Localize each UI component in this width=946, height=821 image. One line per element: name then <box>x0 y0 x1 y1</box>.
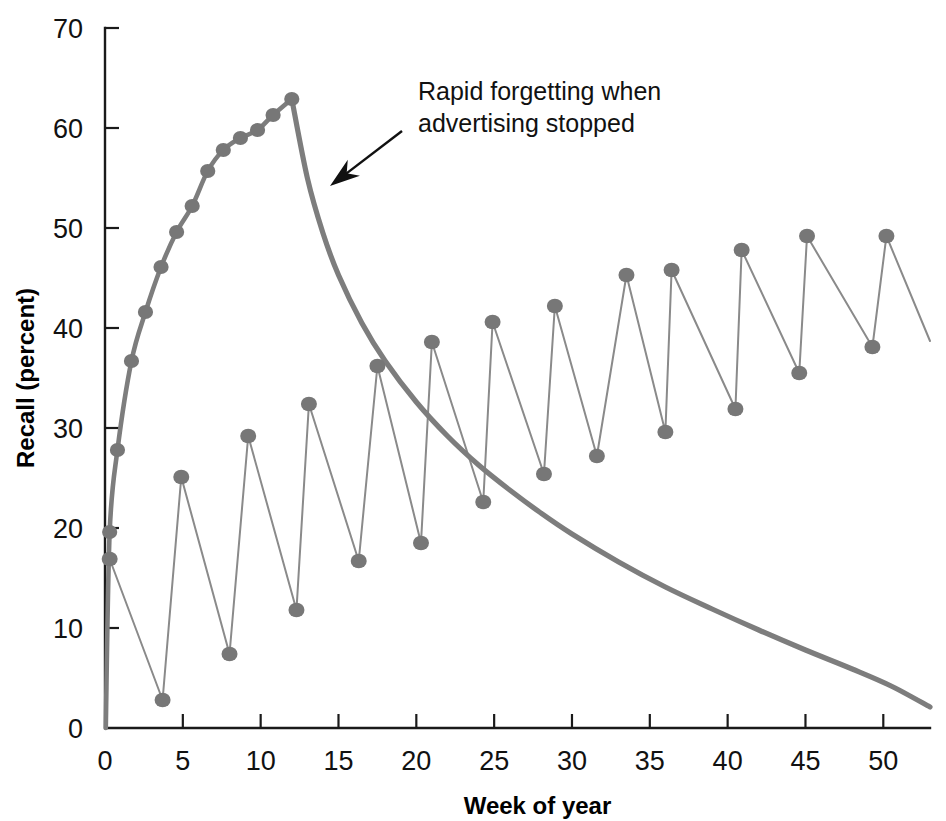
x-tick-label: 25 <box>479 746 509 776</box>
data-point-marker <box>475 495 491 510</box>
y-tick-label: 60 <box>53 114 83 144</box>
y-tick-label: 10 <box>53 614 83 644</box>
x-axis-title: Week of year <box>464 792 612 819</box>
data-point-marker <box>424 335 440 350</box>
x-tick-label: 0 <box>97 746 112 776</box>
data-point-marker <box>589 449 605 464</box>
data-point-marker <box>864 340 880 355</box>
data-point-marker <box>266 108 281 122</box>
y-tick-label: 70 <box>53 14 83 44</box>
data-point-marker <box>124 354 139 368</box>
data-point-marker <box>664 263 680 278</box>
x-tick-label: 40 <box>713 746 743 776</box>
data-point-marker <box>727 402 743 417</box>
x-tick-label: 50 <box>868 746 898 776</box>
data-point-marker <box>657 425 673 440</box>
data-point-marker <box>284 92 299 106</box>
data-point-marker <box>791 366 807 381</box>
y-tick-label: 20 <box>53 514 83 544</box>
data-point-marker <box>878 229 894 244</box>
data-point-marker <box>138 305 153 319</box>
data-point-marker <box>110 443 125 457</box>
x-tick-label: 5 <box>175 746 190 776</box>
data-point-marker <box>169 225 184 239</box>
data-point-marker <box>216 143 231 157</box>
data-point-marker <box>200 164 215 178</box>
y-tick-label: 40 <box>53 314 83 344</box>
data-point-marker <box>485 315 501 330</box>
x-tick-label: 20 <box>401 746 431 776</box>
data-point-marker <box>351 554 367 569</box>
y-tick-label: 30 <box>53 414 83 444</box>
x-tick-label: 45 <box>790 746 820 776</box>
data-point-marker <box>369 359 385 374</box>
data-point-marker <box>173 470 189 485</box>
data-point-marker <box>413 536 429 551</box>
data-point-marker <box>547 299 563 314</box>
data-point-marker <box>618 268 634 283</box>
x-tick-label: 15 <box>323 746 353 776</box>
data-point-marker <box>102 552 118 567</box>
x-tick-label: 30 <box>557 746 587 776</box>
recall-vs-week-chart: 010203040506070 05101520253035404550 Rap… <box>0 0 946 821</box>
data-point-marker <box>102 525 117 539</box>
data-point-marker <box>185 199 200 213</box>
data-point-marker <box>233 131 248 145</box>
data-point-marker <box>222 647 238 662</box>
data-point-marker <box>250 123 265 137</box>
data-point-marker <box>734 243 750 258</box>
data-point-marker <box>155 693 171 708</box>
x-tick-label: 35 <box>635 746 665 776</box>
y-tick-label: 0 <box>68 714 83 744</box>
y-axis-title: Recall (percent) <box>12 288 39 468</box>
annotation-line-1: Rapid forgetting when <box>418 77 661 105</box>
data-point-marker <box>301 397 317 412</box>
data-point-marker <box>536 467 552 482</box>
data-point-marker <box>799 229 815 244</box>
y-tick-label: 50 <box>53 214 83 244</box>
data-point-marker <box>240 429 256 444</box>
data-point-marker <box>288 603 304 618</box>
data-point-marker <box>153 260 168 274</box>
x-tick-label: 10 <box>246 746 276 776</box>
annotation-line-2: advertising stopped <box>418 109 635 137</box>
